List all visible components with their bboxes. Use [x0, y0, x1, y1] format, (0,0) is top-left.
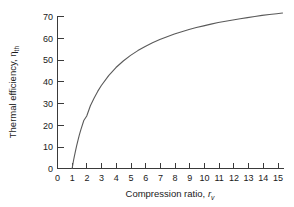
x-tick-label: 0 [55, 173, 60, 183]
x-tick-label: 5 [128, 173, 133, 183]
x-tick-label: 4 [114, 173, 119, 183]
y-axis-title-subscript: th [13, 46, 20, 52]
y-axis-title-text: Thermal efficiency, η [7, 51, 18, 138]
x-tick-label: 11 [215, 173, 224, 183]
y-tick-label: 10 [43, 142, 53, 152]
x-tick-label: 14 [258, 173, 268, 183]
y-tick-label: 50 [43, 55, 53, 65]
x-tick-label: 10 [199, 173, 209, 183]
x-tick-label: 6 [143, 173, 148, 183]
x-tick-label: 12 [229, 173, 239, 183]
y-tick-label: 40 [43, 77, 53, 87]
x-tick-label: 13 [244, 173, 254, 183]
x-tick-label: 15 [273, 173, 283, 183]
svg-text:Compression ratio, rv: Compression ratio, rv [126, 188, 216, 201]
x-tick-label: 1 [70, 173, 75, 183]
x-tick-label: 2 [84, 173, 89, 183]
y-tick-label: 70 [43, 12, 53, 22]
y-tick-label: 60 [43, 34, 53, 44]
y-tick-label: 20 [43, 121, 53, 131]
y-axis-title: Thermal efficiency, ηth [7, 46, 20, 139]
x-tick-label: 7 [158, 173, 163, 183]
x-axis-title-subscript: v [211, 194, 215, 201]
y-tick-label: 0 [48, 164, 53, 174]
x-tick-label: 8 [173, 173, 178, 183]
x-axis-title: Compression ratio, rv [126, 188, 216, 201]
svg-text:Thermal efficiency, ηth: Thermal efficiency, ηth [7, 46, 20, 139]
thermal-efficiency-chart: 70 60 50 40 30 20 10 0 [0, 0, 294, 207]
x-tick-label: 9 [187, 173, 192, 183]
x-tick-label: 3 [99, 173, 104, 183]
y-tick-label: 30 [43, 99, 53, 109]
x-axis-title-text: Compression ratio, [126, 188, 208, 199]
chart-canvas: 70 60 50 40 30 20 10 0 [0, 0, 294, 207]
